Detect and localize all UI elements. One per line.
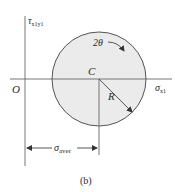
radius-label: R (107, 90, 115, 102)
origin-label: O (12, 83, 20, 95)
tau-axis-label: τx1y1 (28, 15, 44, 27)
angle-label: 2θ (93, 37, 103, 48)
center-label: C (88, 65, 96, 77)
sigma-aver-label: σaver (54, 142, 72, 155)
figure-caption: (b) (80, 175, 92, 187)
sigma-axis-label: σx1 (155, 82, 166, 94)
mohr-circle-figure: τx1y1 O σx1 C R 2θ σaver (b) (0, 0, 175, 192)
